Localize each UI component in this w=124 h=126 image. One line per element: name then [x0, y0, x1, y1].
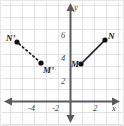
coordinate-plane-svg	[0, 0, 124, 126]
y-axis-label: y	[74, 3, 78, 12]
point-m-label: M	[71, 60, 79, 69]
point-n-label: N	[108, 32, 115, 41]
x-axis-label: x	[112, 104, 116, 113]
x-tick-label-neg2: -2	[52, 104, 59, 113]
point-n-dot	[102, 37, 107, 42]
point-n-prime-label: N’	[6, 34, 16, 43]
coordinate-plane-figure: -4 -2 2 2 4 6 x y M N M’ N’	[0, 0, 124, 126]
point-m-prime-label: M’	[43, 66, 54, 75]
figure-border	[1, 1, 124, 126]
point-m-dot	[78, 61, 83, 66]
y-tick-label-6: 6	[61, 31, 65, 40]
x-tick-label-neg4: -4	[28, 104, 35, 113]
y-tick-label-4: 4	[61, 54, 65, 63]
y-tick-label-2: 2	[61, 77, 65, 86]
x-tick-label-pos2: 2	[93, 104, 97, 113]
